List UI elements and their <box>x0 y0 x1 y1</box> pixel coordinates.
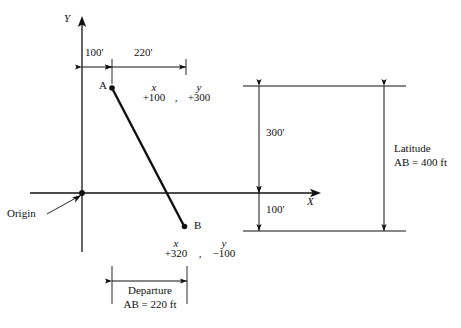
origin-point <box>79 190 85 196</box>
y-axis-label: Y <box>64 13 70 25</box>
dimension-label-100-lower: 100' <box>266 204 284 216</box>
latitude-annotation: Latitude AB = 400 ft <box>394 142 447 170</box>
point-a-y-value: +300 <box>180 92 218 104</box>
point-b-y-value: −100 <box>204 248 244 260</box>
top-dimension-group <box>82 59 186 84</box>
origin-leader-line <box>47 195 82 214</box>
departure-annotation-line1: Departure <box>116 284 184 298</box>
dimension-label-300: 300' <box>266 127 284 139</box>
diagram-canvas: Y X Origin 100' 220' A B x y +100 , +300… <box>0 0 461 328</box>
point-a-x-value: +100 <box>136 92 172 104</box>
diagram-vector-layer <box>0 0 461 328</box>
point-b-x-value: +320 <box>156 248 196 260</box>
latitude-annotation-line1: Latitude <box>394 142 447 156</box>
dimension-label-220-top: 220' <box>134 47 152 59</box>
dimension-label-100-left: 100' <box>85 47 103 59</box>
point-b-separator: , <box>196 248 204 260</box>
departure-annotation-line2: AB = 220 ft <box>116 298 184 312</box>
point-b-label: B <box>194 220 201 232</box>
point-b-coordinates: x y +320 , −100 <box>152 238 248 259</box>
line-ab <box>109 85 187 229</box>
point-a-coordinates: x y +100 , +300 <box>134 82 220 103</box>
latitude-annotation-line2: AB = 400 ft <box>394 156 447 170</box>
x-axis-label: X <box>307 196 314 208</box>
x-axis <box>30 189 321 197</box>
origin-label: Origin <box>7 208 36 220</box>
departure-annotation: Departure AB = 220 ft <box>116 284 184 312</box>
point-a-label: A <box>99 80 107 92</box>
point-a-separator: , <box>172 92 180 104</box>
